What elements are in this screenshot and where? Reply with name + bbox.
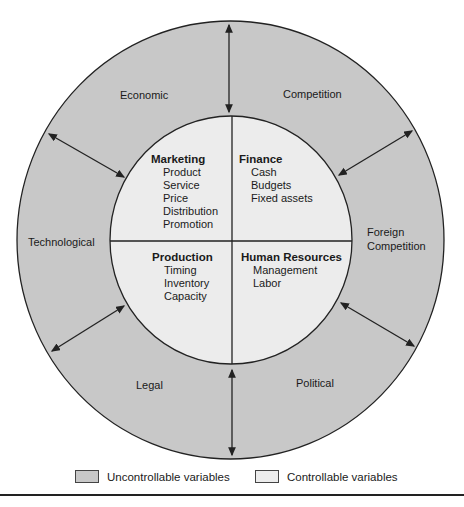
list-item: Cash xyxy=(239,166,313,179)
quadrant-hr: Human Resources Management Labor xyxy=(241,251,342,290)
marketing-title: Marketing xyxy=(151,153,218,166)
quadrant-production: Production Timing Inventory Capacity xyxy=(152,251,213,303)
legend-label: Uncontrollable variables xyxy=(107,471,230,483)
label-economic: Economic xyxy=(120,89,168,102)
list-item: Budgets xyxy=(239,179,313,192)
list-item: Promotion xyxy=(151,218,218,231)
list-item: Management xyxy=(241,264,342,277)
quadrant-finance: Finance Cash Budgets Fixed assets xyxy=(239,153,313,205)
list-item: Distribution xyxy=(151,205,218,218)
label-political: Political xyxy=(296,377,334,390)
list-item: Price xyxy=(151,192,218,205)
quadrant-marketing: Marketing Product Service Price Distribu… xyxy=(151,153,218,231)
list-item: Service xyxy=(151,179,218,192)
list-item: Product xyxy=(151,166,218,179)
diagram-canvas xyxy=(0,0,464,507)
production-title: Production xyxy=(152,251,213,264)
legend-uncontrollable: Uncontrollable variables xyxy=(75,470,230,483)
list-item: Timing xyxy=(152,264,213,277)
label-competition: Competition xyxy=(283,88,342,101)
label-technological: Technological xyxy=(28,236,95,249)
list-item: Inventory xyxy=(152,277,213,290)
finance-title: Finance xyxy=(239,153,313,166)
label-foreign: Foreign xyxy=(367,226,404,239)
swatch-uncontrollable xyxy=(75,470,99,483)
legend-controllable: Controllable variables xyxy=(255,470,398,483)
hr-title: Human Resources xyxy=(241,251,342,264)
list-item: Capacity xyxy=(152,290,213,303)
swatch-controllable xyxy=(255,470,279,483)
list-item: Fixed assets xyxy=(239,192,313,205)
label-foreign-competition: Competition xyxy=(367,240,426,253)
label-legal: Legal xyxy=(136,379,163,392)
inner-circle xyxy=(110,116,352,364)
bottom-rule xyxy=(0,494,464,496)
list-item: Labor xyxy=(241,277,342,290)
legend-label: Controllable variables xyxy=(287,471,398,483)
